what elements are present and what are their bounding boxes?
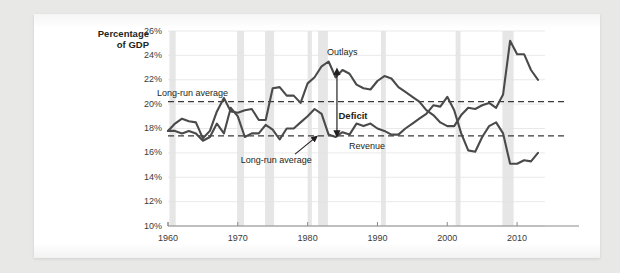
long-run-average-leader-arrow <box>295 138 315 154</box>
x-tick-label-2000: 2000 <box>424 234 470 243</box>
y-tick-label-26: 26% <box>130 27 162 36</box>
y-tick-label-24: 24% <box>130 51 162 60</box>
annotation-outlays: Outlays <box>327 47 358 57</box>
x-tick-label-1980: 1980 <box>285 234 331 243</box>
annotation-arrows-group <box>295 71 337 154</box>
chart-plot-area <box>34 14 600 258</box>
x-tick-label-1960: 1960 <box>145 234 191 243</box>
x-tick-label-1970: 1970 <box>215 234 261 243</box>
y-tick-label-14: 14% <box>130 173 162 182</box>
y-axis-title-line2: of GDP <box>117 39 149 50</box>
series-line-revenue <box>168 97 538 164</box>
x-tick-label-1990: 1990 <box>354 234 400 243</box>
chart-figure: Percentageof GDP 10%12%14%16%18%20%22%24… <box>34 14 600 258</box>
axes-group <box>168 222 579 226</box>
page-canvas: Percentageof GDP 10%12%14%16%18%20%22%24… <box>34 14 600 258</box>
y-tick-label-18: 18% <box>130 124 162 133</box>
y-tick-label-16: 16% <box>130 148 162 157</box>
y-tick-label-22: 22% <box>130 75 162 84</box>
annotation-revenue: Revenue <box>349 141 385 151</box>
y-tick-label-10: 10% <box>130 222 162 231</box>
y-tick-label-12: 12% <box>130 197 162 206</box>
annotation-deficit: Deficit <box>339 111 368 121</box>
y-tick-label-20: 20% <box>130 100 162 109</box>
x-tick-label-2010: 2010 <box>494 234 540 243</box>
annotation-long-run-average: Long-run average <box>241 155 312 165</box>
annotation-long-run-average: Long-run average <box>157 88 228 98</box>
